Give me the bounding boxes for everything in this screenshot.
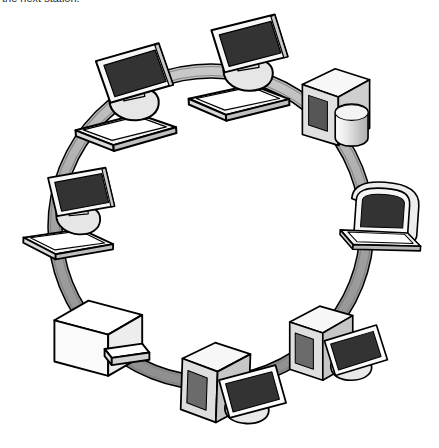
desktop-monitor-keyboard-icon	[23, 165, 116, 261]
node-workstation-upper-left[interactable]	[70, 42, 178, 153]
server-tower-disk-icon	[302, 69, 369, 146]
desktop-monitor-keyboard-icon	[70, 42, 178, 153]
node-desktop-pc-bottom[interactable]	[180, 342, 288, 425]
figure-root: the next station.	[0, 0, 439, 448]
tower-monitor-icon	[180, 342, 288, 425]
tower-monitor-icon	[290, 306, 388, 380]
node-laptop-right[interactable]	[339, 179, 425, 254]
ring-topology-diagram	[0, 0, 439, 448]
node-server-upper-right[interactable]	[302, 69, 369, 146]
laptop-icon	[339, 179, 425, 254]
node-desktop-pc-lower-right[interactable]	[290, 306, 388, 380]
node-workstation-left[interactable]	[23, 165, 116, 261]
